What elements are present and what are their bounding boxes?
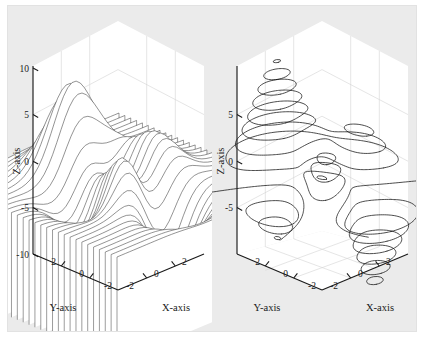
right-z-tick-label: 5 [228,110,233,120]
right-y-tick-label: 2 [255,257,260,267]
figure-container: 10 5 0 -5 -10 2 0 -2 -2 0 [0,0,424,341]
left-z-tick-label: 0 [24,157,29,167]
right-z-tick-label: -5 [225,203,233,213]
left-z-tick-label: -10 [16,250,29,260]
right-z-axis-label: Z-axis [215,148,226,175]
left-x-axis-label: X-axis [162,302,190,313]
left-z-tick-label: 5 [24,110,29,120]
left-z-tick-label: 10 [20,64,30,74]
right-x-tick-label: -2 [330,281,338,291]
right-plot-axes: 5 0 -5 2 0 -2 -2 0 2 Z-axis Y-axis [212,6,416,331]
left-x-tick-label: 2 [182,257,187,267]
right-x-axis-label: X-axis [366,302,394,313]
left-x-tick-label: -2 [126,281,134,291]
left-plot-axes: 10 5 0 -5 -10 2 0 -2 -2 0 [8,6,212,331]
left-z-axis-label: Z-axis [11,148,22,175]
right-x-tick-label: 2 [386,257,391,267]
left-x-tick-label: 0 [154,269,159,279]
left-plot-svg: 10 5 0 -5 -10 2 0 -2 -2 0 [8,6,212,331]
left-y-tick-label: 0 [79,269,84,279]
right-x-tick-label: 0 [358,269,363,279]
left-y-tick-label: 2 [51,257,56,267]
right-y-tick-label: 0 [283,269,288,279]
right-z-tick-label: 0 [228,157,233,167]
left-z-tick-label: -5 [21,203,29,213]
right-y-tick-label: -2 [308,281,316,291]
right-plot-svg: 5 0 -5 2 0 -2 -2 0 2 Z-axis Y-axis [212,6,416,331]
left-y-tick-label: -2 [104,281,112,291]
left-y-axis-label: Y-axis [50,302,77,313]
figure-background: 10 5 0 -5 -10 2 0 -2 -2 0 [8,6,416,331]
right-y-axis-label: Y-axis [254,302,281,313]
